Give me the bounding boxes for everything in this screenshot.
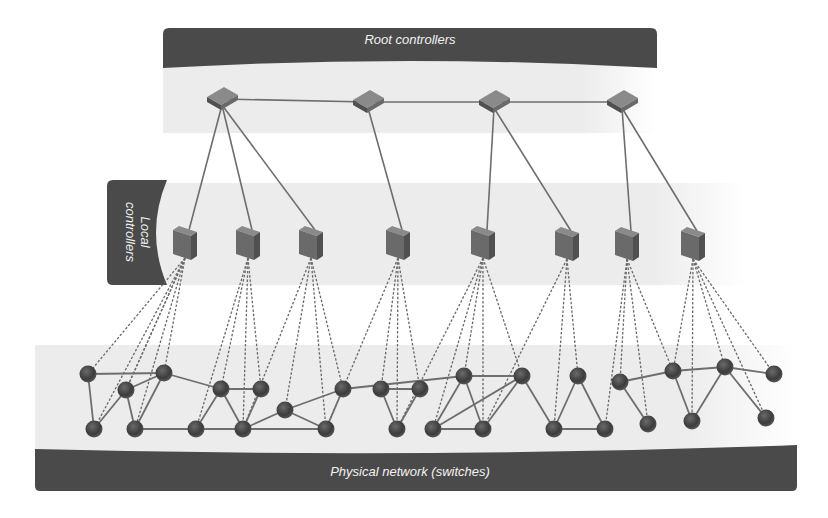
switch-icon — [766, 366, 783, 383]
local-controller-icon — [299, 226, 323, 260]
local-controller-icon — [615, 227, 639, 261]
root-controllers-label: Root controllers — [364, 32, 456, 47]
switch-icon — [235, 421, 252, 438]
switch-icon — [612, 374, 629, 391]
switch-icon — [456, 368, 473, 385]
switch-icon — [570, 368, 587, 385]
switch-icon — [335, 381, 352, 398]
switch-icon — [412, 381, 429, 398]
switch-icon — [684, 413, 701, 430]
switch-icon — [213, 381, 230, 398]
switch-icon — [118, 382, 135, 399]
switch-icon — [546, 421, 563, 438]
physical-network-label: Physical network (switches) — [330, 464, 490, 479]
local-controllers-label-line1: Local — [138, 216, 153, 248]
switch-icon — [373, 381, 390, 398]
switch-icon — [514, 368, 531, 385]
switch-icon — [318, 421, 335, 438]
local-controller-icon — [173, 226, 197, 260]
switch-icon — [253, 381, 270, 398]
switch-icon — [127, 421, 144, 438]
switch-icon — [188, 421, 205, 438]
switch-icon — [665, 363, 682, 380]
local-controller-icon — [386, 226, 410, 260]
switch-icon — [156, 365, 173, 382]
switch-icon — [389, 421, 406, 438]
physical-link — [88, 373, 164, 374]
local-controller-icon — [471, 226, 495, 260]
local-controller-icon — [681, 227, 705, 261]
switch-icon — [277, 402, 294, 419]
switch-icon — [86, 421, 103, 438]
switch-icon — [80, 366, 97, 383]
switch-icon — [425, 421, 442, 438]
switch-icon — [475, 421, 492, 438]
switch-icon — [597, 421, 614, 438]
network-hierarchy-diagram: Root controllers Physical network (switc… — [0, 0, 828, 518]
switch-icon — [758, 410, 775, 427]
switch-icon — [640, 416, 657, 433]
local-controller-icon — [236, 226, 260, 260]
switch-icon — [717, 359, 734, 376]
local-controller-icon — [555, 227, 579, 261]
local-controllers-label-line2: controllers — [123, 202, 138, 262]
